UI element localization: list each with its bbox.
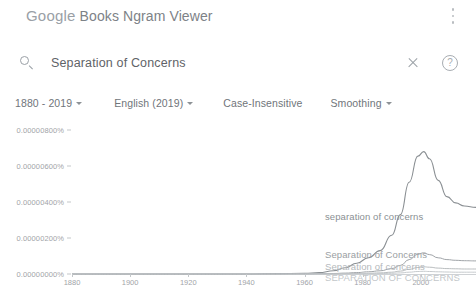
- x-axis-label: 1920: [180, 278, 197, 287]
- filter-smoothing-label: Smoothing: [330, 97, 381, 109]
- google-logo: Google: [26, 7, 76, 24]
- app-header: Google Books Ngram Viewer: [0, 0, 476, 30]
- kebab-dot: [452, 21, 455, 24]
- app-title-label: Books Ngram Viewer: [80, 8, 213, 24]
- help-icon[interactable]: ?: [442, 55, 458, 71]
- series-label[interactable]: Separation of concerns: [325, 261, 425, 272]
- chevron-down-icon: [386, 102, 392, 105]
- y-axis-label: 0.00000400%: [17, 198, 64, 207]
- search-bar: Separation of Concerns ?: [0, 42, 476, 84]
- y-axis-label: 0.00000000%: [17, 270, 64, 279]
- filter-case-sensitivity[interactable]: Case-Insensitive: [223, 97, 302, 109]
- x-axis-label: 1960: [296, 278, 313, 287]
- kebab-dot: [452, 15, 455, 18]
- y-axis-tick: [67, 166, 71, 167]
- x-axis-label: 1940: [238, 278, 255, 287]
- x-axis-label: 1900: [122, 278, 139, 287]
- y-axis-label: 0.00000800%: [17, 126, 64, 135]
- filter-date-range[interactable]: 1880 - 2019: [15, 97, 82, 109]
- search-icon: [20, 56, 35, 71]
- filter-bar: 1880 - 2019 English (2019) Case-Insensit…: [0, 92, 476, 114]
- kebab-dot: [452, 8, 455, 11]
- y-axis-tick: [67, 202, 71, 203]
- y-axis-tick: [67, 130, 71, 131]
- y-axis-tick: [67, 238, 71, 239]
- y-axis-tick: [67, 274, 71, 275]
- x-axis-tick: [130, 274, 131, 277]
- kebab-menu-icon[interactable]: [445, 7, 461, 25]
- filter-corpus[interactable]: English (2019): [114, 97, 193, 109]
- filter-smoothing[interactable]: Smoothing: [330, 97, 391, 109]
- series-label[interactable]: separation of concerns: [325, 211, 423, 222]
- y-axis-label: 0.00000600%: [17, 162, 64, 171]
- chevron-down-icon: [76, 102, 82, 105]
- search-input[interactable]: Separation of Concerns: [51, 56, 406, 70]
- series-label[interactable]: SEPARATION OF CONCERNS: [325, 272, 460, 283]
- y-axis-label: 0.00000200%: [17, 234, 64, 243]
- y-axis: 0.00000800%0.00000600%0.00000400%0.00000…: [0, 130, 72, 304]
- x-axis-tick: [246, 274, 247, 277]
- ngram-chart: 0.00000800%0.00000600%0.00000400%0.00000…: [0, 130, 476, 304]
- filter-case-sensitivity-label: Case-Insensitive: [223, 97, 302, 109]
- chevron-down-icon: [187, 102, 193, 105]
- x-axis-tick: [305, 274, 306, 277]
- series-label[interactable]: Separation of Concerns: [325, 249, 427, 260]
- x-axis-label: 1880: [64, 278, 81, 287]
- x-axis-tick: [72, 274, 73, 277]
- filter-date-range-label: 1880 - 2019: [15, 97, 72, 109]
- x-axis-tick: [188, 274, 189, 277]
- filter-corpus-label: English (2019): [114, 97, 183, 109]
- app-title: Google Books Ngram Viewer: [26, 7, 213, 24]
- close-icon[interactable]: [406, 56, 420, 70]
